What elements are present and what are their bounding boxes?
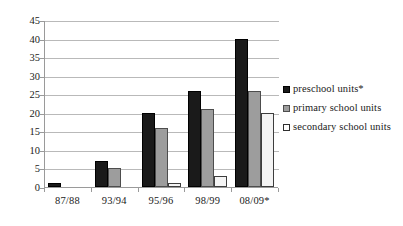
y-axis-tick-label: 25	[18, 90, 40, 101]
x-axis-tick-mark	[138, 188, 139, 192]
legend-item[interactable]: secondary school units	[283, 118, 401, 137]
bar-0809-series0	[235, 39, 248, 187]
bar-chart: 051015202530354045 87/8893/9495/9698/990…	[0, 0, 403, 226]
bar-9899-series0	[188, 91, 201, 187]
bar-0809-series1	[248, 91, 261, 187]
y-axis-tick-label: 45	[18, 16, 40, 27]
bar-8788-series0	[48, 183, 61, 187]
y-axis-tick-label: 30	[18, 72, 40, 83]
x-axis-label: 98/99	[184, 196, 231, 207]
x-axis-label: 87/88	[44, 196, 91, 207]
y-axis-tick-label: 10	[18, 146, 40, 157]
x-axis-label: 08/09*	[231, 196, 278, 207]
legend-swatch-icon	[283, 105, 290, 112]
y-axis-tick-label: 40	[18, 35, 40, 46]
bar-9394-series0	[95, 161, 108, 187]
plot-area	[44, 21, 278, 188]
x-axis-tick-mark	[184, 188, 185, 192]
legend-item[interactable]: preschool units*	[283, 80, 401, 99]
gridline	[45, 21, 279, 22]
chart-legend: preschool units*primary school unitsseco…	[283, 80, 401, 137]
legend-label: preschool units*	[293, 84, 364, 95]
legend-item[interactable]: primary school units	[283, 99, 401, 118]
bar-9596-series0	[142, 113, 155, 187]
bar-9899-series1	[201, 109, 214, 187]
x-axis-tick-mark	[231, 188, 232, 192]
y-axis-tick-label: 15	[18, 127, 40, 138]
y-axis-tick-label: 35	[18, 53, 40, 64]
y-axis-tick-label: 5	[18, 164, 40, 175]
bar-0809-series2	[261, 113, 274, 187]
bar-9394-series1	[108, 168, 121, 187]
legend-label: secondary school units	[293, 122, 391, 133]
x-axis-label: 93/94	[91, 196, 138, 207]
bar-9899-series2	[214, 176, 227, 187]
y-axis-tick-label: 20	[18, 109, 40, 120]
y-axis-tick-label: 0	[18, 183, 40, 194]
x-axis-tick-mark	[278, 188, 279, 192]
bar-9596-series1	[155, 128, 168, 187]
legend-label: primary school units	[293, 103, 381, 114]
x-axis-tick-mark	[44, 188, 45, 192]
legend-swatch-icon	[283, 124, 290, 131]
legend-swatch-icon	[283, 86, 290, 93]
x-axis-label: 95/96	[138, 196, 185, 207]
x-axis-tick-mark	[91, 188, 92, 192]
bar-9596-series2	[168, 183, 181, 187]
